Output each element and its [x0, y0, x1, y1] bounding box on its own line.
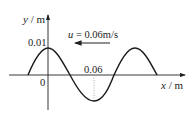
velocity-label: u = 0.06m/s	[68, 29, 118, 40]
origin-label: 0	[40, 77, 45, 88]
x-tick-label: 0.06	[84, 64, 102, 75]
y-axis-label: y / m	[22, 13, 45, 25]
x-axis-label: x / m	[160, 79, 183, 91]
wave-diagram: y / m 0.01 0 0.06 x / m u = 0.06m/s	[0, 0, 193, 127]
amplitude-label: 0.01	[28, 37, 46, 48]
